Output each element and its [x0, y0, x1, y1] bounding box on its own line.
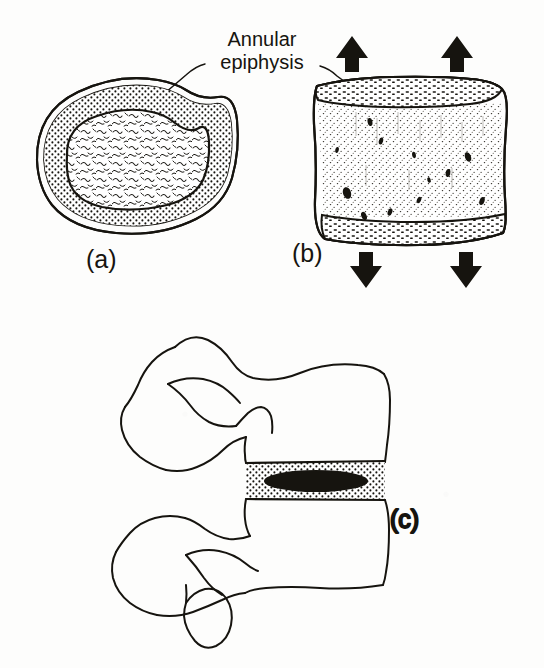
panel-a-label: (a)	[86, 245, 117, 273]
panel-c-upper-pedicle-upper	[166, 437, 246, 471]
panel-b-body-texture-group	[310, 103, 510, 232]
panel-b-label: (b)	[292, 239, 323, 267]
panel-a: (a)	[37, 78, 238, 273]
disc-nucleus-pulposus	[264, 470, 368, 492]
disc-inferior-border	[246, 499, 385, 500]
callout-line-epiphysis: epiphysis	[220, 51, 303, 73]
growth-arrow-down-left	[350, 252, 382, 288]
panel-c-intervertebral-disc	[244, 460, 388, 502]
panel-c-lower-pedicle	[245, 499, 250, 536]
panel-c-upper-superior-articular-facet	[236, 407, 272, 433]
panel-c-upper-body-inferior-plate	[245, 437, 246, 463]
growth-arrow-up-right	[441, 36, 473, 72]
panel-c: (c)	[112, 337, 419, 647]
panel-c-lower-body-inferior-border	[245, 585, 383, 593]
panel-c-lower-spinous-process-upper	[116, 516, 185, 552]
panel-c-facet-connector	[186, 585, 187, 603]
panel-b: (b)	[292, 36, 510, 288]
panel-c-upper-body-right-wall	[384, 374, 390, 462]
panel-c-lower-superior-articular-process	[185, 518, 250, 539]
panel-c-upper-articular-notch	[168, 378, 240, 403]
panel-c-upper-spinous-process	[175, 337, 384, 379]
panel-c-upper-left-process	[125, 347, 175, 407]
panel-c-upper-inferior-left-border	[121, 407, 166, 470]
panel-c-lower-spinous-process-left	[112, 552, 157, 615]
anatomy-illustration: Annular epiphysis (a)	[0, 0, 544, 668]
panel-c-label: (c)	[390, 505, 419, 533]
growth-arrow-up-left	[336, 36, 368, 72]
callout-line-annular: Annular	[228, 28, 297, 50]
panel-c-inferior-articular-facet	[184, 589, 232, 648]
panel-c-lower-body-right-wall	[383, 500, 389, 585]
figure-page: NORMAL GROWTH IN THE SPINE	[0, 0, 544, 668]
growth-arrow-down-right	[450, 252, 482, 288]
